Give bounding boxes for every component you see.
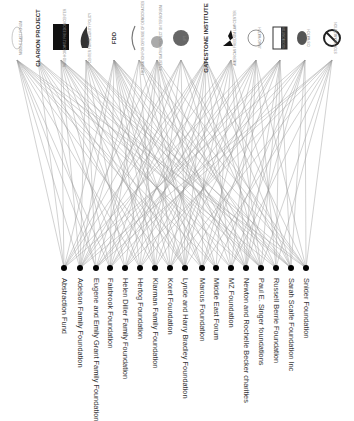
edge [276, 60, 332, 268]
funder-label: MZ Foundation [227, 278, 235, 328]
org-logo-t7[interactable]: IPTIPT [173, 30, 189, 46]
funder-label: Sarah Scaife Foundation Inc [287, 278, 295, 371]
funder-label: Abstraction Fund [60, 278, 68, 334]
edge [276, 60, 280, 268]
edge [80, 60, 231, 268]
org-logo-text: STOP ISLAMIZATION [334, 22, 338, 54]
funder-node-dot[interactable] [288, 265, 294, 271]
funder-node-dot[interactable] [93, 265, 99, 271]
org-logo-text: INVESTIGATIVE PROJECT ON TERRORISM [159, 5, 163, 71]
org-logo-t8[interactable]: GATESTONE INSTITUTEGATESTONE INSTITUTE [203, 3, 209, 72]
edge [96, 60, 157, 268]
edge [202, 60, 332, 268]
edge [80, 60, 280, 268]
funder-node-dot[interactable] [77, 265, 83, 271]
funder-node-dot[interactable] [199, 265, 205, 271]
funder-label: Marcus Foundation [198, 278, 206, 341]
edge [291, 60, 305, 268]
edge [17, 60, 276, 268]
org-logo-text: DAVID HOROWITZ FREEDOM CENTER [63, 8, 67, 67]
edge [185, 60, 231, 268]
org-logo-text: MIDDLE EAST FORUM [19, 21, 23, 55]
edge [181, 60, 291, 268]
edge [256, 60, 276, 268]
funder-label: Middle East Forum [212, 278, 220, 340]
funder-node-dot[interactable] [213, 265, 219, 271]
funder-label: Koret Foundation [166, 278, 174, 335]
org-logo-text: CIS WATCH [307, 29, 311, 47]
funder-label: Snider Foundation [302, 278, 310, 338]
org-logo-text: CENTER FOR SECURITY POLICY [88, 12, 92, 63]
funder-node-dot[interactable] [152, 265, 158, 271]
edge [17, 60, 64, 268]
funder-label: Lynde and Harry Bradley Foundation [181, 278, 189, 399]
org-logo-text: FOUNDATION FOR DEFENSE OF DEMOCRACIES [141, 1, 145, 75]
edge [305, 60, 306, 268]
edge [125, 60, 332, 268]
edge [140, 60, 206, 268]
funder-label: Helen Diller Family Foundation [121, 278, 129, 379]
org-logo-t10[interactable]: Jihad WatchJIHAD WATCH [248, 27, 264, 49]
funder-label: Newton and Rochelle Becker charities [242, 278, 250, 403]
funder-label: Russell Berrie Foundation [272, 278, 280, 363]
org-logo-t0[interactable]: Middle East ForumMIDDLE EAST FORUM [12, 21, 23, 55]
funder-node-dot[interactable] [122, 265, 128, 271]
org-logo-text: JIHAD WATCH [258, 27, 262, 49]
edge [110, 60, 305, 268]
funder-node-dot[interactable] [182, 265, 188, 271]
funder-node-dot[interactable] [107, 265, 113, 271]
org-logo-t4[interactable]: FDDFDD [111, 31, 117, 44]
funder-label: Paul E. Singer foundations [257, 278, 265, 366]
org-logo-text: CLARION PROJECT [35, 9, 41, 67]
org-logo-t12[interactable]: CIS WatchCIS WATCH [297, 29, 311, 47]
org-logo-text: AMERICAN FREEDOM LAW CENTER [233, 10, 237, 66]
funder-node-dot[interactable] [243, 265, 249, 271]
edge [86, 60, 125, 268]
funder-label: Adelson Family Foundation [76, 278, 84, 368]
funder-label: Klarman Family Foundation [151, 278, 159, 368]
funder-node-dot[interactable] [167, 265, 173, 271]
funder-node-dot[interactable] [258, 265, 264, 271]
funder-node-dot[interactable] [303, 265, 309, 271]
funder-node-dot[interactable] [273, 265, 279, 271]
edge-layer [17, 60, 332, 268]
funder-label: Fairbrook Foundation [106, 278, 114, 348]
org-logo-t11[interactable]: NGO MonitorNGO MONITOR [273, 26, 287, 50]
funder-label: Eugene and Emily Grant Family Foundation [92, 278, 100, 421]
edge [206, 60, 306, 268]
edge [306, 60, 332, 268]
org-logo-t9[interactable]: American Freedom Law CenterAMERICAN FREE… [223, 10, 237, 66]
edge [80, 60, 181, 268]
org-logo-text: IPT [183, 35, 187, 40]
org-logo-text: GATESTONE INSTITUTE [203, 3, 209, 72]
funder-node-dot[interactable] [137, 265, 143, 271]
edge [17, 60, 140, 268]
edge [61, 60, 306, 268]
org-logo-t3[interactable]: Center for Security PolicyCENTER FOR SEC… [81, 12, 92, 63]
org-logo-t1[interactable]: CLARION PROJECTCLARION PROJECT [35, 9, 41, 67]
funder-label: Hertog Foundation [136, 278, 144, 339]
org-logo-text: NGO MONITOR [282, 26, 286, 50]
org-logo-t2[interactable]: David Horowitz Freedom CenterDAVID HOROW… [53, 8, 69, 67]
org-logo-t13[interactable]: Stop IslamizationSTOP ISLAMIZATION [324, 22, 340, 54]
edge [157, 60, 306, 268]
edge [206, 60, 291, 268]
org-logo-text: FDD [111, 31, 117, 44]
funder-node-dot[interactable] [61, 265, 67, 271]
funder-node-dot[interactable] [228, 265, 234, 271]
